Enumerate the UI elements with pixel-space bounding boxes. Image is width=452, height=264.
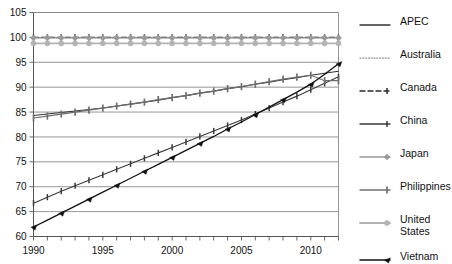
series-marker [211,35,217,41]
series-marker [384,220,389,225]
legend-item-philippines[interactable]: Philippines [358,181,451,194]
x-axis-label: 1995 [92,245,115,256]
series-japan [30,35,341,41]
series-marker [197,141,203,146]
legend-swatch-united-states [358,215,394,227]
series-marker [31,41,36,46]
series-marker [127,35,133,41]
legend-label-apec: APEC [400,16,429,28]
series-marker [267,41,272,46]
series-marker [114,35,120,41]
series-marker [100,41,105,46]
series-marker [294,41,299,46]
series-marker [169,35,175,41]
series-marker [72,41,77,46]
legend-label-united-states: United States [400,214,430,237]
series-marker [141,35,147,41]
legend-swatch-vietnam [358,252,394,264]
series-marker [211,41,216,46]
legend-label-canada: Canada [400,82,437,94]
series-marker [142,41,147,46]
series-marker [384,154,390,160]
series-marker [322,35,328,41]
x-axis-label: 1990 [22,245,45,256]
series-marker [183,35,189,41]
legend-label-philippines: Philippines [400,181,451,193]
series-line [34,64,339,227]
series-marker [72,35,78,41]
series-marker [335,35,341,41]
y-axis-label: 70 [15,181,27,192]
legend-item-australia[interactable]: Australia [358,49,441,62]
series-marker [128,41,133,46]
series-marker [30,35,36,41]
legend-label-australia: Australia [400,49,441,61]
series-marker [308,35,314,41]
series-marker [197,35,203,41]
series-marker [86,41,91,46]
legend-item-vietnam[interactable]: Vietnam [358,251,438,264]
legend-item-japan[interactable]: Japan [358,148,429,161]
y-axis-label: 105 [10,7,27,18]
y-axis-label: 90 [15,82,27,93]
series-marker [45,41,50,46]
y-axis-label: 80 [15,132,27,143]
series-marker [156,41,161,46]
y-axis-label: 100 [10,32,27,43]
y-axis-label: 75 [15,156,27,167]
legend-item-apec[interactable]: APEC [358,16,429,29]
legend-item-united-states[interactable]: United States [358,214,430,237]
legend-swatch-japan [358,149,394,161]
legend-label-japan: Japan [400,148,429,160]
legend-item-canada[interactable]: Canada [358,82,437,95]
series-marker [252,35,258,41]
x-axis-label: 2010 [300,245,323,256]
series-united-states [31,41,341,46]
legend-label-vietnam: Vietnam [400,251,438,263]
series-marker [308,82,314,87]
legend-swatch-philippines [358,182,394,194]
series-marker [100,35,106,41]
y-axis-label: 60 [15,231,27,242]
series-marker [224,35,230,41]
series-marker [170,41,175,46]
legend-swatch-australia [358,50,394,62]
series-marker [308,41,313,46]
series-marker [253,41,258,46]
series-marker [239,41,244,46]
series-marker [197,41,202,46]
legend-label-china: China [400,115,427,127]
series-philippines [34,72,339,122]
series-marker [266,35,272,41]
series-marker [170,155,176,160]
y-axis-label: 95 [15,57,27,68]
chart-legend: APECAustraliaCanadaChinaJapanPhilippines… [358,8,452,258]
x-axis-label: 2000 [161,245,184,256]
line-chart: 6065707580859095100105199019952000200520… [0,0,452,264]
series-marker [86,197,92,202]
y-axis-label: 65 [15,206,27,217]
series-marker [280,97,286,102]
x-axis-label: 2005 [230,245,253,256]
series-marker [225,41,230,46]
series-marker [384,258,390,263]
series-marker [322,41,327,46]
series-marker [59,41,64,46]
legend-swatch-apec [358,17,394,29]
series-marker [336,41,341,46]
series-marker [238,35,244,41]
series-marker [294,35,300,41]
series-marker [58,35,64,41]
legend-item-china[interactable]: China [358,115,427,128]
series-marker [280,41,285,46]
series-marker [155,35,161,41]
series-marker [44,35,50,41]
series-marker [86,35,92,41]
series-marker [114,183,120,188]
legend-swatch-china [358,116,394,128]
series-marker [142,169,148,174]
series-marker [114,41,119,46]
legend-swatch-canada [358,83,394,95]
series-marker [183,41,188,46]
series-marker [280,35,286,41]
